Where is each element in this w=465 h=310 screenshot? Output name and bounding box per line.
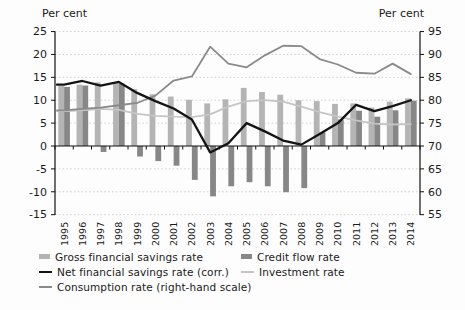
gridlines [55, 32, 420, 215]
svg-text:-5: -5 [36, 163, 47, 176]
legend-label-investment: Investment rate [259, 266, 345, 278]
svg-text:Per cent: Per cent [379, 7, 425, 20]
svg-text:2013: 2013 [387, 222, 398, 246]
svg-text:15: 15 [33, 71, 47, 84]
svg-text:65: 65 [428, 163, 442, 176]
svg-text:2012: 2012 [369, 222, 380, 246]
chart-legend: Gross financial savings rate Credit flow… [39, 250, 345, 293]
credit-flow-swatch-icon [241, 254, 252, 259]
svg-text:2001: 2001 [168, 222, 179, 246]
legend-item-net-savings: Net financial savings rate (corr.) [39, 265, 241, 278]
svg-text:2009: 2009 [314, 222, 325, 246]
svg-text:70: 70 [428, 140, 442, 153]
svg-text:75: 75 [428, 117, 442, 130]
net-savings-line-swatch-icon [39, 271, 52, 273]
svg-text:2007: 2007 [278, 222, 289, 246]
svg-text:2008: 2008 [296, 222, 307, 246]
legend-label-gross-savings: Gross financial savings rate [55, 251, 203, 263]
axis-titles: Per centPer cent [42, 7, 425, 20]
svg-text:80: 80 [428, 94, 442, 107]
zero-axis-line [55, 146, 420, 150]
svg-text:20: 20 [33, 48, 47, 61]
svg-text:2011: 2011 [351, 222, 362, 246]
left-axis-tick-labels: -15-10-50510152025 [29, 25, 47, 221]
consumption-line-swatch-icon [39, 286, 52, 288]
svg-text:2005: 2005 [241, 222, 252, 246]
savings-chart-figure: -15-10-505101520255560657075808590951995… [0, 0, 465, 310]
svg-text:-10: -10 [29, 186, 47, 199]
svg-text:2006: 2006 [259, 222, 270, 246]
svg-text:2000: 2000 [150, 222, 161, 246]
svg-text:10: 10 [33, 94, 47, 107]
svg-text:25: 25 [33, 25, 47, 38]
svg-text:1998: 1998 [113, 222, 124, 246]
legend-item-gross-savings: Gross financial savings rate [39, 250, 241, 263]
legend-item-credit-flow: Credit flow rate [241, 250, 345, 263]
legend-item-consumption: Consumption rate (right-hand scale) [39, 280, 345, 293]
svg-text:55: 55 [428, 208, 442, 221]
legend-label-consumption: Consumption rate (right-hand scale) [57, 281, 252, 293]
x-axis-year-labels: 1995199619971998199920002001200220032004… [59, 222, 417, 246]
svg-text:85: 85 [428, 71, 442, 84]
legend-label-net-savings: Net financial savings rate (corr.) [57, 266, 229, 278]
svg-text:2014: 2014 [405, 222, 416, 246]
svg-text:90: 90 [428, 48, 442, 61]
chart-canvas: -15-10-505101520255560657075808590951995… [0, 0, 465, 250]
svg-text:5: 5 [40, 117, 47, 130]
svg-text:2002: 2002 [186, 222, 197, 246]
legend-label-credit-flow: Credit flow rate [257, 251, 340, 263]
svg-text:60: 60 [428, 186, 442, 199]
right-axis-tick-labels: 556065707580859095 [428, 25, 442, 221]
svg-text:Per cent: Per cent [42, 7, 88, 20]
svg-text:1996: 1996 [77, 222, 88, 246]
svg-text:2004: 2004 [223, 222, 234, 246]
svg-text:0: 0 [40, 140, 47, 153]
svg-text:2003: 2003 [205, 222, 216, 246]
svg-text:-15: -15 [29, 208, 47, 221]
svg-text:95: 95 [428, 25, 442, 38]
legend-item-investment: Investment rate [241, 265, 345, 278]
svg-text:1995: 1995 [59, 222, 70, 246]
svg-text:1999: 1999 [132, 222, 143, 246]
svg-text:2010: 2010 [332, 222, 343, 246]
svg-text:1997: 1997 [95, 222, 106, 246]
gross-savings-swatch-icon [39, 254, 50, 259]
investment-line-swatch-icon [241, 271, 254, 273]
